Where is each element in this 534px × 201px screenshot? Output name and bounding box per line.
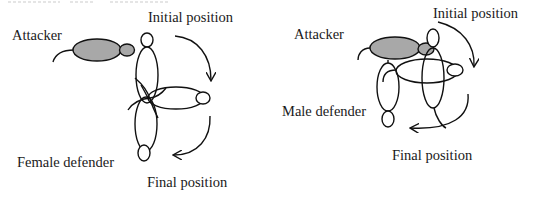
defender-final-figure bbox=[135, 97, 157, 161]
defender-label: Female defender bbox=[17, 154, 114, 170]
attacker-label: Attacker bbox=[294, 26, 344, 42]
panel-right-male-defender: Attacker Initial position Male defender … bbox=[282, 5, 519, 163]
final-rotation-arrow bbox=[411, 94, 468, 128]
mating-position-diagram: Attacker Initial position Female defende… bbox=[0, 0, 534, 201]
final-position-label: Final position bbox=[147, 174, 228, 190]
defender-intermediate-figure bbox=[148, 87, 210, 109]
initial-position-label: Initial position bbox=[148, 9, 234, 25]
initial-rotation-arrow bbox=[438, 22, 474, 66]
initial-rotation-arrow bbox=[175, 36, 211, 80]
initial-position-label: Initial position bbox=[433, 5, 519, 21]
attacker-figure bbox=[358, 37, 434, 60]
attacker-figure bbox=[53, 39, 135, 62]
defender-label: Male defender bbox=[282, 103, 366, 119]
attacker-label: Attacker bbox=[12, 27, 62, 43]
defender-final-figure bbox=[377, 60, 399, 127]
final-rotation-arrow bbox=[174, 116, 210, 155]
final-position-label: Final position bbox=[392, 147, 473, 163]
panel-left-female-defender: Attacker Initial position Female defende… bbox=[12, 9, 234, 190]
